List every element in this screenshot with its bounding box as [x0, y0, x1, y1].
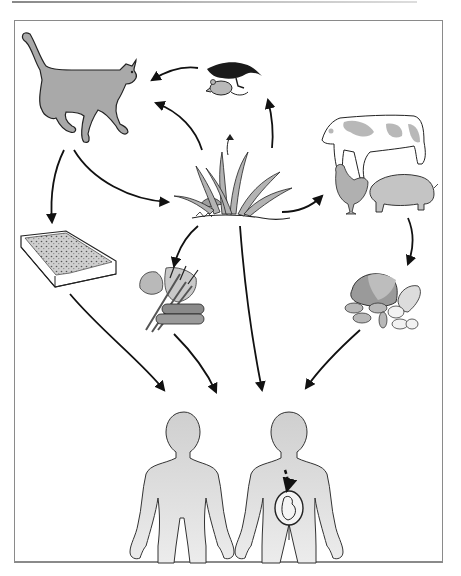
arrow-prey-to-cat — [152, 68, 198, 81]
vegetables-icon — [140, 262, 204, 332]
arrow-litter-to-humans — [70, 294, 164, 390]
human-icon — [130, 412, 234, 563]
arrow-cat-to-litter — [52, 150, 65, 222]
arrow-grass-to-humans — [240, 226, 262, 390]
arrow-grass-to-vegetables — [174, 226, 198, 266]
pregnant-woman-icon — [235, 412, 343, 563]
litter-box-icon — [21, 231, 116, 287]
grass-icon — [174, 134, 292, 220]
arrow-meat-to-humans — [306, 330, 360, 388]
livestock-icon — [322, 115, 438, 214]
arrow-grass-to-prey — [268, 100, 273, 148]
cat-icon — [23, 33, 137, 142]
arrow-grass-to-livestock — [282, 196, 322, 212]
bird-mouse-icon — [206, 62, 262, 95]
arrow-grass-to-cat — [156, 103, 202, 150]
pig-icon — [370, 174, 438, 212]
meat-icon — [345, 274, 420, 329]
arrow-livestock-to-meat — [408, 218, 413, 264]
transmission-diagram — [0, 0, 461, 576]
arrow-cat-to-grass — [74, 150, 168, 202]
arrow-vegetables-to-humans — [174, 334, 216, 392]
